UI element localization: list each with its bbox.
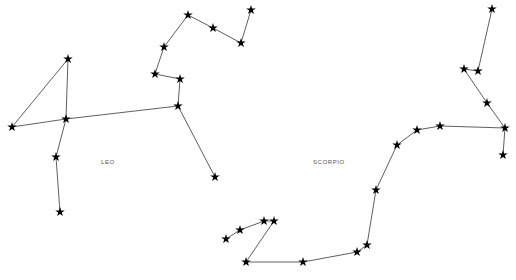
chart-background <box>0 0 516 280</box>
constellation-chart: LeoScorpio <box>0 0 516 280</box>
constellation-label-leo: Leo <box>101 156 115 166</box>
constellation-label-scorpio: Scorpio <box>313 156 345 166</box>
